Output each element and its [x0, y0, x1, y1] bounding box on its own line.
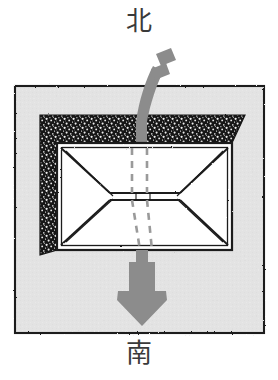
roof-outline	[57, 143, 232, 250]
caption-partial-text	[6, 371, 272, 380]
direction-label-north: 北	[0, 8, 278, 34]
roof-plan	[57, 143, 232, 250]
arrow-tail-dashes	[151, 48, 176, 80]
figure-root: 北 南	[0, 0, 278, 380]
roof-wind-diagram-svg	[0, 0, 278, 380]
direction-label-south: 南	[0, 340, 278, 366]
